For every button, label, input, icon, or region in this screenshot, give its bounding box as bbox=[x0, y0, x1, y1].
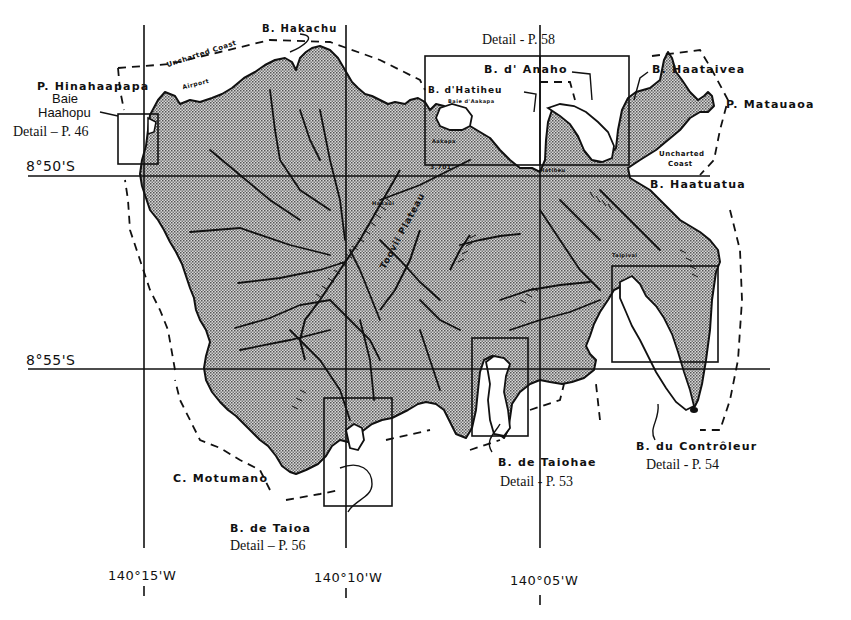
lat-label-850: 8°50'S bbox=[26, 158, 75, 174]
label-baie: Baie bbox=[52, 91, 78, 106]
bay-aakapa bbox=[436, 104, 472, 130]
detail-label-p46: Detail – P. 46 bbox=[13, 124, 88, 140]
detail-label-p56: Detail – P. 56 bbox=[230, 538, 305, 554]
lat-label-855: 8°55'S bbox=[26, 352, 75, 368]
label-hatiheu-village: Hatiheu bbox=[540, 167, 566, 173]
lon-label-15: 140°15'W bbox=[108, 568, 176, 583]
label-b-hakachu: B. Hakachu bbox=[262, 23, 338, 34]
lon-label-05: 140°05'W bbox=[510, 573, 578, 588]
label-b-du-controleur: B. du Contrôleur bbox=[636, 440, 757, 453]
label-b-de-taiohae: B. de Taiohae bbox=[498, 456, 597, 469]
label-taipivai: Taipivai bbox=[612, 252, 638, 258]
detail-label-p53: Detail - P. 53 bbox=[500, 474, 573, 490]
label-p-matauaoa: P. Matauaoa bbox=[726, 98, 815, 111]
label-b-anaho: B. d' Anaho bbox=[484, 63, 568, 76]
label-coast-ne: Coast bbox=[668, 160, 693, 168]
label-hakaui: Hakaui bbox=[372, 200, 395, 206]
label-b-de-taioa: B. de Taioa bbox=[230, 522, 311, 535]
label-baie-aakapa: Baie d'Aakapa bbox=[448, 98, 495, 104]
lon-label-10: 140°10'W bbox=[314, 570, 382, 585]
label-summit: 3,701' bbox=[430, 163, 454, 170]
detail-label-p54: Detail - P. 54 bbox=[646, 457, 719, 473]
islet bbox=[690, 407, 698, 413]
label-b-haataivea: B. Haataivea bbox=[652, 63, 745, 76]
detail-label-p58: Detail - P. 58 bbox=[482, 32, 555, 48]
label-b-haatuatua: B. Haatuatua bbox=[650, 178, 746, 191]
label-uncharted-ne: Uncharted bbox=[659, 150, 705, 158]
label-b-hatiheu: B. d'Hatiheu bbox=[428, 85, 503, 95]
label-aakapa: Aakapa bbox=[432, 138, 456, 144]
island-landmass bbox=[140, 46, 720, 474]
label-c-motumano: C. Motumano bbox=[173, 472, 268, 485]
label-haahopu: Haahopu bbox=[38, 105, 91, 120]
island-map bbox=[0, 0, 851, 620]
bay-taioa bbox=[346, 424, 364, 450]
